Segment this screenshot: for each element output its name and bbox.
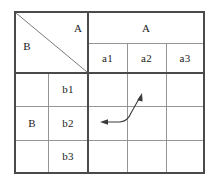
row-group-label-B: B (16, 115, 48, 131)
column-header-a2: a2 (127, 50, 166, 66)
row-header-b2: b2 (48, 115, 88, 131)
column-group-label-A: A (88, 20, 204, 36)
column-header-a1: a1 (88, 50, 127, 66)
row-header-b3: b3 (48, 148, 88, 164)
column-header-a3: a3 (166, 50, 204, 66)
row-header-b1: b1 (48, 81, 88, 97)
corner-column-label: A (68, 20, 88, 36)
corner-row-label: B (16, 38, 38, 54)
